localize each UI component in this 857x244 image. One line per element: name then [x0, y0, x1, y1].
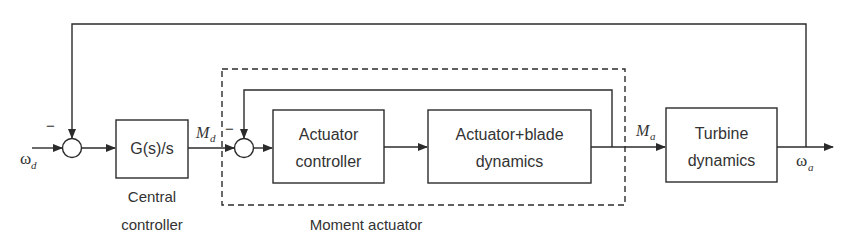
block-diagram: − − ω d M d M a ω a G(s)/s Actuator cont…: [0, 0, 857, 244]
actuator-blade-line1: Actuator+blade: [455, 126, 563, 143]
sum1-minus-sign: −: [46, 117, 55, 134]
input-omega-label: ω: [20, 149, 31, 168]
output-omega-label: ω: [796, 151, 807, 170]
actuator-controller-block: [273, 110, 384, 183]
central-caption-line1: Central: [128, 188, 176, 205]
md-subscript: d: [210, 132, 216, 144]
summing-junction-2: [235, 139, 254, 158]
actuator-blade-block: [428, 110, 591, 183]
turbine-line1: Turbine: [695, 125, 749, 142]
input-omega-subscript: d: [31, 159, 37, 171]
ma-subscript: a: [650, 130, 656, 142]
sum2-minus-sign: −: [225, 120, 234, 137]
central-caption-line2: controller: [121, 216, 183, 233]
actuator-blade-line2: dynamics: [476, 153, 544, 170]
actuator-controller-line2: controller: [296, 153, 362, 170]
actuator-controller-line1: Actuator: [299, 126, 359, 143]
md-label: M: [195, 124, 211, 141]
turbine-dynamics-block: [666, 108, 777, 182]
turbine-line2: dynamics: [688, 152, 756, 169]
moment-actuator-caption: Moment actuator: [310, 216, 423, 233]
central-controller-transfer-function: G(s)/s: [130, 140, 174, 157]
output-omega-subscript: a: [808, 161, 814, 173]
summing-junction-1: [63, 139, 82, 158]
ma-label: M: [635, 122, 651, 139]
